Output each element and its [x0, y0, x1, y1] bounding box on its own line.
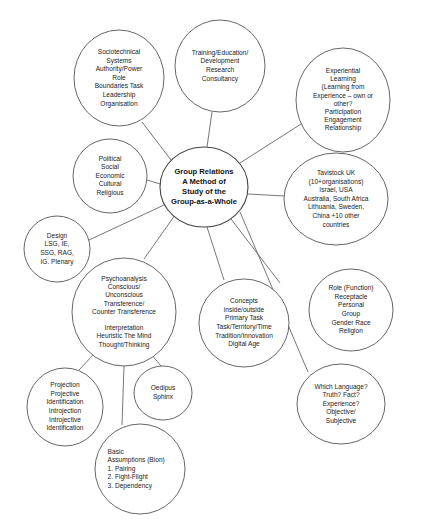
node-projection-identification[interactable]: ProjectionProjectiveIdentificationIntroj…	[27, 368, 103, 446]
node-group-relations-center[interactable]: Group RelationsA Method ofStudy of theGr…	[160, 147, 248, 227]
design-events-line: Design	[47, 232, 68, 240]
sociotechnical-systems-line: Systems	[106, 57, 132, 65]
basic-assumptions-line: 1. Pairing	[108, 465, 136, 473]
sociotechnical-systems-line: Sociotechnical	[98, 48, 141, 55]
experiential-learning-line: Engagement	[324, 116, 362, 124]
experiential-learning-line: Participation	[325, 108, 362, 116]
psychoanalysis-line: Counter Transference	[92, 308, 156, 315]
node-role-function[interactable]: Role (Function)ReceptaclePersonalGroupGe…	[309, 269, 393, 351]
tavistock-uk-line: countries	[323, 221, 350, 228]
sociotechnical-systems-line: Boundaries Task	[95, 82, 144, 89]
political-social-line: Religious	[96, 189, 124, 197]
node-oedipus-sphinx[interactable]: OedipusSphinx	[134, 366, 192, 420]
political-social-line: Political	[99, 155, 122, 162]
experiential-learning-line: other?	[334, 100, 353, 107]
projection-identification-line: Projective	[51, 390, 80, 398]
projection-identification-line: Introjection	[49, 407, 82, 415]
concepts-line: Digital Age	[228, 340, 260, 348]
political-social-line: Cultural	[99, 180, 122, 187]
role-function-line: Gender Race	[331, 319, 371, 326]
concepts-line: Task/Territory/Time	[216, 323, 272, 331]
which-language-line: Experience?	[323, 400, 360, 408]
concepts-line: inside/outside	[224, 306, 265, 313]
political-social-line: Social	[101, 163, 119, 170]
projection-identification-line: Introjective	[49, 416, 81, 424]
basic-assumptions-line: Assumptions (Bion)	[108, 456, 165, 464]
psychoanalysis-line: Conscious/	[108, 283, 141, 290]
training-education-line: Research	[206, 66, 235, 73]
sociotechnical-systems-line: Authority/Power	[96, 65, 143, 73]
node-concepts[interactable]: Conceptsinside/outsidePrimary TaskTask/T…	[199, 279, 289, 367]
role-function-line: Religion	[339, 327, 363, 335]
node-sociotechnical-systems[interactable]: SociotechnicalSystemsAuthority/PowerRole…	[74, 30, 164, 126]
psychoanalysis-line: Interpretation	[105, 324, 144, 332]
training-education-line: Training/Education/	[192, 49, 249, 57]
role-function-line: Role (Function)	[328, 284, 373, 292]
sociotechnical-systems-line: Leadership	[103, 91, 136, 99]
psychoanalysis-line: Transference/	[104, 300, 145, 307]
training-education-line: Development	[201, 57, 240, 65]
role-function-line: Personal	[338, 301, 365, 308]
psychoanalysis-line: Unconscious	[105, 291, 143, 298]
group-relations-center-line: Group-as-a-Whole	[171, 197, 237, 206]
concepts-line: Tradition/Innovation	[215, 332, 273, 339]
experiential-learning-line: Learning	[330, 75, 356, 83]
design-events-line: LSG, IE,	[45, 240, 70, 247]
node-design-events[interactable]: DesignLSG, IE,SSG, RAG,IG. Plenary	[24, 216, 90, 282]
tavistock-uk-line: Australia, South Africa	[304, 195, 369, 202]
psychoanalysis-line: Psychoanalysis	[101, 275, 147, 283]
which-language-line: Truth? Fact?	[322, 391, 359, 398]
which-language-line: Subjective	[326, 417, 357, 425]
sociotechnical-systems-line: Organisation	[100, 100, 138, 108]
node-tavistock-uk[interactable]: Tavistock UK(10+organisations)Israel, US…	[284, 153, 388, 245]
psychoanalysis-line: Heuristic The Mind	[97, 332, 152, 339]
experiential-learning-line: Experience – own or	[313, 92, 374, 100]
oedipus-sphinx-line: Oedipus	[151, 384, 176, 392]
political-social-line: Economic	[96, 172, 126, 179]
training-education-line: Consultancy	[202, 75, 239, 83]
oedipus-sphinx-line: Sphinx	[153, 393, 174, 401]
group-relations-center-line: Group Relations	[174, 167, 233, 176]
tavistock-uk-line: Israel, USA	[319, 186, 353, 193]
design-events-line: SSG, RAG,	[40, 249, 74, 256]
node-experiential-learning[interactable]: ExperientialLearning(Learning fromExperi…	[296, 48, 390, 152]
design-events-line: IG. Plenary	[41, 258, 75, 266]
role-function-line: Receptacle	[335, 293, 368, 301]
projection-identification-line: Projection	[50, 381, 80, 389]
node-psychoanalysis[interactable]: PsychoanalysisConscious/UnconsciousTrans…	[72, 258, 176, 366]
basic-assumptions-line: 3. Dependency	[108, 482, 153, 490]
experiential-learning-line: (Learning from	[322, 83, 365, 91]
role-function-line: Group	[342, 310, 361, 318]
node-training-education[interactable]: Training/Education/DevelopmentResearchCo…	[175, 20, 265, 112]
psychoanalysis-line: Thought/Thinking	[99, 341, 150, 349]
projection-identification-line: Identification	[46, 398, 83, 405]
group-relations-mind-map: SociotechnicalSystemsAuthority/PowerRole…	[0, 0, 424, 521]
tavistock-uk-line: Lithuania, Sweden,	[308, 203, 364, 210]
basic-assumptions-line: Basic	[108, 448, 125, 455]
concepts-line: Primary Task	[225, 314, 264, 322]
basic-assumptions-line: 2. Fight-Flight	[108, 473, 148, 481]
node-which-language[interactable]: Which Language?Truth? Fact?Experience?Ob…	[297, 364, 385, 444]
which-language-line: Objective/	[326, 408, 355, 416]
group-relations-center-line: A Method of	[182, 177, 226, 186]
experiential-learning-line: Relationship	[325, 124, 362, 132]
tavistock-uk-line: (10+organisations)	[309, 178, 364, 186]
center-node-layer: Group RelationsA Method ofStudy of theGr…	[160, 147, 248, 227]
tavistock-uk-line: China +10 other	[312, 212, 360, 219]
group-relations-center-line: Study of the	[182, 187, 226, 196]
concepts-line: Concepts	[230, 297, 259, 305]
projection-identification-line: Identification	[46, 424, 83, 431]
node-political-social[interactable]: PoliticalSocialEconomicCulturalReligious	[73, 139, 147, 213]
experiential-learning-line: Experiential	[326, 67, 361, 75]
sociotechnical-systems-line: Role	[112, 74, 126, 81]
node-basic-assumptions[interactable]: BasicAssumptions (Bion)1. Pairing2. Figh…	[95, 424, 185, 514]
which-language-line: Which Language?	[314, 383, 367, 391]
tavistock-uk-line: Tavistock UK	[317, 169, 356, 176]
